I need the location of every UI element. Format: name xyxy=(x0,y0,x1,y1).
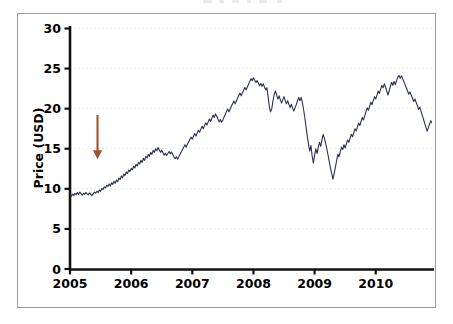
x-tick-labels: 200520062007200820092010 xyxy=(53,276,394,291)
annotation-layer xyxy=(93,115,102,159)
down-arrow-annotation xyxy=(93,115,102,159)
y-tick-label: 15 xyxy=(44,141,61,156)
figure-canvas: 051015202530 200520062007200820092010 Pr… xyxy=(0,0,453,324)
y-tick-label: 25 xyxy=(44,61,61,76)
x-tick-label: 2006 xyxy=(114,276,149,291)
x-tick-label: 2005 xyxy=(53,276,88,291)
y-tick-label: 30 xyxy=(44,21,62,36)
y-tick-labels: 051015202530 xyxy=(44,21,62,277)
y-tick-label: 10 xyxy=(44,181,62,196)
x-tick-label: 2008 xyxy=(236,276,271,291)
arrow-head xyxy=(93,150,102,159)
x-tick-label: 2010 xyxy=(358,276,393,291)
chart-plot: 051015202530 200520062007200820092010 Pr… xyxy=(0,0,453,324)
price-series-line xyxy=(70,75,432,196)
gridlines-group xyxy=(70,29,434,229)
y-axis-title: Price (USD) xyxy=(31,108,46,189)
y-tick-label: 0 xyxy=(52,262,61,277)
y-tick-label: 5 xyxy=(52,221,61,236)
x-tick-label: 2009 xyxy=(297,276,332,291)
x-tick-label: 2007 xyxy=(175,276,210,291)
y-tick-label: 20 xyxy=(44,101,62,116)
